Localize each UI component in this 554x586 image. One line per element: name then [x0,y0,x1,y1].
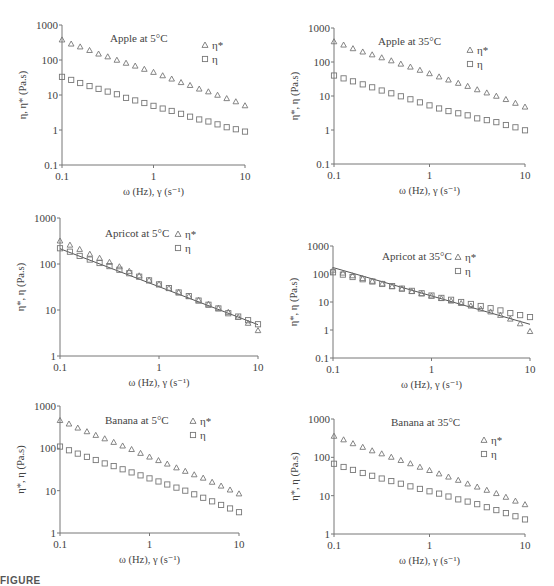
triangle-marker-icon [494,491,500,496]
square-marker-icon [456,497,461,502]
triangle-marker-icon [388,454,394,459]
square-marker-icon [494,508,499,513]
square-marker-icon [475,502,480,507]
x-tick-label: 0.1 [327,539,341,551]
triangle-marker-icon [484,487,490,492]
triangle-marker-icon [341,437,347,442]
square-marker-icon [484,505,489,510]
square-marker-icon [398,481,403,486]
triangle-marker-icon [408,461,414,466]
triangle-marker-icon [465,481,471,486]
square-marker-icon [503,511,508,516]
y-tick-label: 100 [314,451,331,463]
square-marker-icon [417,486,422,491]
triangle-marker-icon [446,474,452,479]
triangle-marker-icon [417,464,423,469]
legend-square-icon [481,451,486,456]
triangle-marker-icon [360,444,366,449]
square-marker-icon [370,473,375,478]
x-tick-label: 10 [520,539,532,551]
triangle-marker-icon [427,467,433,472]
legend-label: η [491,448,497,460]
triangle-marker-icon [369,448,375,453]
chart-title: Banana at 35°C [391,416,460,428]
y-tick-label: 1000 [308,413,331,425]
triangle-marker-icon [350,441,356,446]
square-marker-icon [360,470,365,475]
legend-label: η* [491,434,502,446]
square-marker-icon [389,478,394,483]
figure-caption: FIGURE [0,575,41,586]
y-tick-label: 10 [319,490,331,502]
x-axis-label: ω (Hz), γ (s⁻¹) [399,555,461,567]
triangle-marker-icon [474,484,480,489]
x-tick-label: 1 [427,539,433,551]
square-marker-icon [522,517,527,522]
square-marker-icon [379,476,384,481]
legend-triangle-icon [481,437,487,442]
square-marker-icon [427,489,432,494]
triangle-marker-icon [455,477,461,482]
triangle-marker-icon [513,498,519,503]
y-axis-label: η*, η (Pa.s) [289,452,301,501]
triangle-marker-icon [522,502,528,507]
triangle-marker-icon [503,494,509,499]
square-marker-icon [436,491,441,496]
series-square [331,461,527,522]
triangle-marker-icon [398,457,404,462]
square-marker-icon [465,499,470,504]
square-marker-icon [408,484,413,489]
triangle-marker-icon [379,451,385,456]
square-marker-icon [446,494,451,499]
triangle-marker-icon [436,471,442,476]
square-marker-icon [341,464,346,469]
square-marker-icon [350,467,355,472]
square-marker-icon [513,514,518,519]
